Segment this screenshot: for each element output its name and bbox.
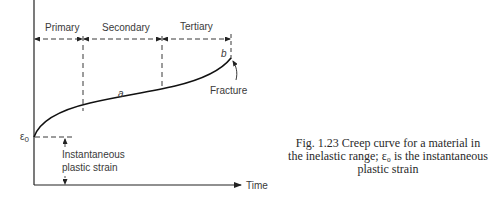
instantaneous-label-line2: plastic strain [62,162,118,173]
stage-label-secondary: Secondary [102,22,150,33]
epsilon-label: ε0 [20,131,29,144]
stage-label-primary: Primary [45,22,79,33]
creep-curve [34,58,231,137]
caption-line-3: plastic strain [278,163,498,176]
point-a-label: a [118,88,124,99]
stage-label-tertiary: Tertiary [180,21,213,32]
fracture-arrow [233,61,237,80]
figure-caption: Fig. 1.23 Creep curve for a material in … [278,137,498,176]
instantaneous-label-line1: Instantaneous [62,149,125,160]
point-b-label: b [221,48,227,59]
fracture-label: Fracture [210,85,248,96]
x-axis-label: Time [246,180,268,191]
